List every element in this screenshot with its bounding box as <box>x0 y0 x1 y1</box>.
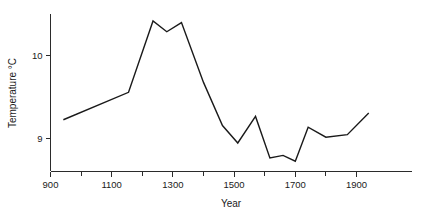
x-axis: 90011001300150017001900 <box>43 172 412 190</box>
x-tick-label: 1700 <box>285 179 306 190</box>
temperature-series-line <box>63 21 368 161</box>
temperature-line-chart: 910 90011001300150017001900 Year Tempera… <box>0 0 425 214</box>
y-axis: 910 <box>32 14 51 171</box>
y-axis-title: Temperature °C <box>7 58 18 128</box>
x-tick-label: 900 <box>43 179 59 190</box>
x-tick-label: 1500 <box>224 179 245 190</box>
y-tick-label: 10 <box>32 50 43 61</box>
data-series-group <box>63 21 368 161</box>
x-axis-title: Year <box>221 198 242 209</box>
x-axis-ticks <box>51 172 357 177</box>
x-axis-tick-labels: 90011001300150017001900 <box>43 179 368 190</box>
y-axis-tick-labels: 910 <box>32 50 43 144</box>
chart-canvas: 910 90011001300150017001900 Year Tempera… <box>0 0 425 214</box>
x-tick-label: 1100 <box>101 179 121 190</box>
x-tick-label: 1300 <box>162 179 183 190</box>
y-axis-ticks <box>46 55 51 138</box>
x-tick-label: 1900 <box>346 179 367 190</box>
y-tick-label: 9 <box>37 133 42 144</box>
